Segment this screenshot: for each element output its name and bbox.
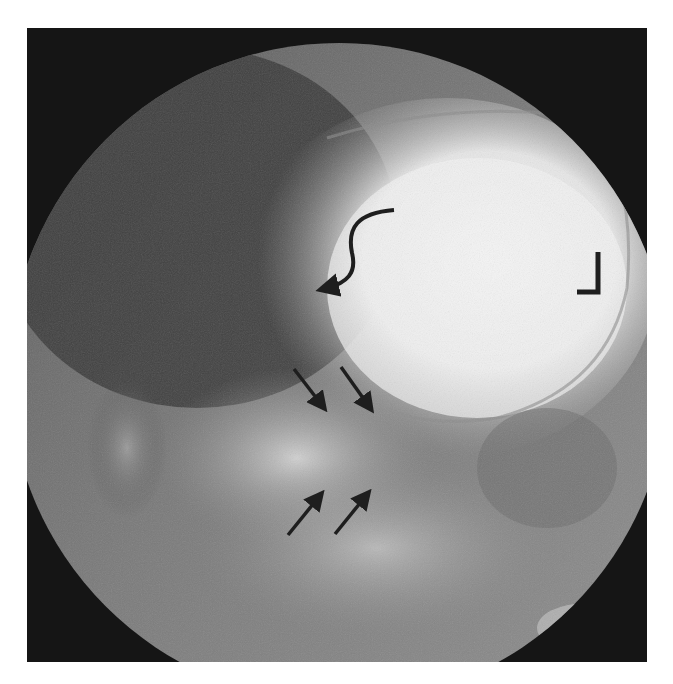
radiograph-frame bbox=[27, 28, 647, 662]
radiograph-image bbox=[27, 28, 647, 662]
field-of-view bbox=[27, 28, 647, 662]
